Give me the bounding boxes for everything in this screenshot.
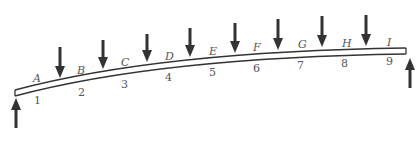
segment-number: 7 — [297, 59, 304, 72]
load-arrow-icon — [361, 15, 371, 46]
segment-letter: H — [341, 37, 352, 50]
load-arrow-icon — [98, 40, 108, 69]
segment-number: 6 — [253, 62, 260, 75]
segment-number: 8 — [341, 57, 348, 70]
segment-letter: A — [32, 72, 41, 85]
load-arrow-icon — [142, 34, 152, 62]
segment-number: 1 — [34, 94, 41, 107]
load-arrow-icon — [273, 19, 283, 50]
load-arrow-icon — [55, 47, 65, 78]
beam-diagram: A B C D E F G H I 1 2 3 4 5 6 7 8 9 — [0, 0, 416, 142]
segment-letter: E — [208, 45, 217, 58]
segment-number: 5 — [209, 66, 216, 79]
segment-letter: F — [252, 41, 261, 54]
segment-number: 4 — [165, 71, 172, 84]
segment-number: 2 — [78, 86, 85, 99]
segment-number: 3 — [121, 78, 128, 91]
segment-letter: G — [298, 38, 307, 51]
load-arrow-icon — [185, 28, 195, 57]
segment-letter: B — [76, 64, 85, 77]
left-support-arrow-icon — [11, 98, 21, 128]
segment-letter: I — [386, 36, 392, 49]
segment-letter: D — [164, 50, 174, 63]
load-arrow-icon — [230, 23, 240, 53]
segment-number: 9 — [386, 55, 393, 68]
segment-letter: C — [121, 56, 130, 69]
right-support-arrow-icon — [405, 58, 415, 88]
load-arrow-icon — [317, 16, 327, 47]
